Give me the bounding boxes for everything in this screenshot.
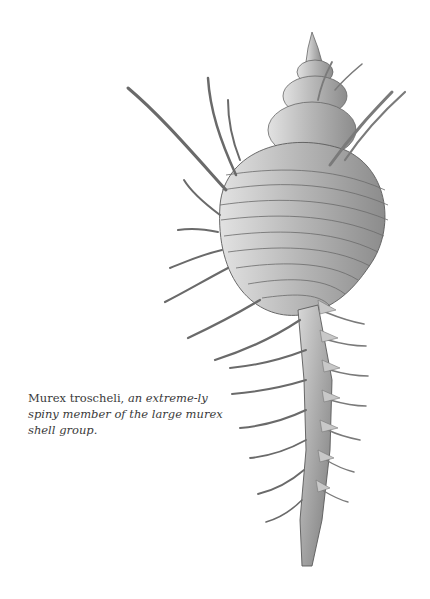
shell-spire — [268, 32, 356, 158]
caption-species-name: Murex troscheli, — [28, 391, 124, 405]
murex-shell-illustration — [0, 0, 430, 599]
shell-siphonal-canal — [298, 305, 332, 566]
shell-body-whorl — [220, 142, 388, 315]
figure-caption: Murex troscheli, an extreme-ly spiny mem… — [28, 390, 228, 438]
